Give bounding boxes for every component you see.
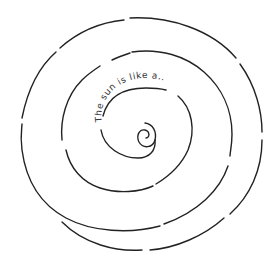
spiral-outer-right-lower (230, 140, 262, 214)
spiral-outer-bottom-end (62, 222, 142, 250)
spiral-outer-top-left (60, 20, 124, 48)
spiral-caption: The sun is like a.. (93, 70, 166, 124)
spiral-outer-top (130, 18, 236, 58)
spiral-inner-loop (101, 130, 155, 158)
spiral-lines (21, 18, 262, 250)
spiral-third-top-left (112, 53, 130, 60)
spiral-outer-right (240, 64, 262, 132)
spiral-outer-left (22, 52, 56, 118)
spiral-third-right (164, 166, 228, 224)
spiral-center-curl (138, 123, 156, 147)
spiral-outer-bottom (150, 218, 224, 250)
spiral-third-top (132, 51, 232, 156)
spiral-second-left (62, 66, 100, 140)
spiral-third-bottom (21, 124, 160, 231)
spiral-second-right (156, 96, 192, 184)
spiral-caption-text: The sun is like a.. (93, 70, 166, 124)
spiral-drawing: The sun is like a.. (0, 0, 277, 266)
spiral-second-bottom (66, 150, 153, 192)
